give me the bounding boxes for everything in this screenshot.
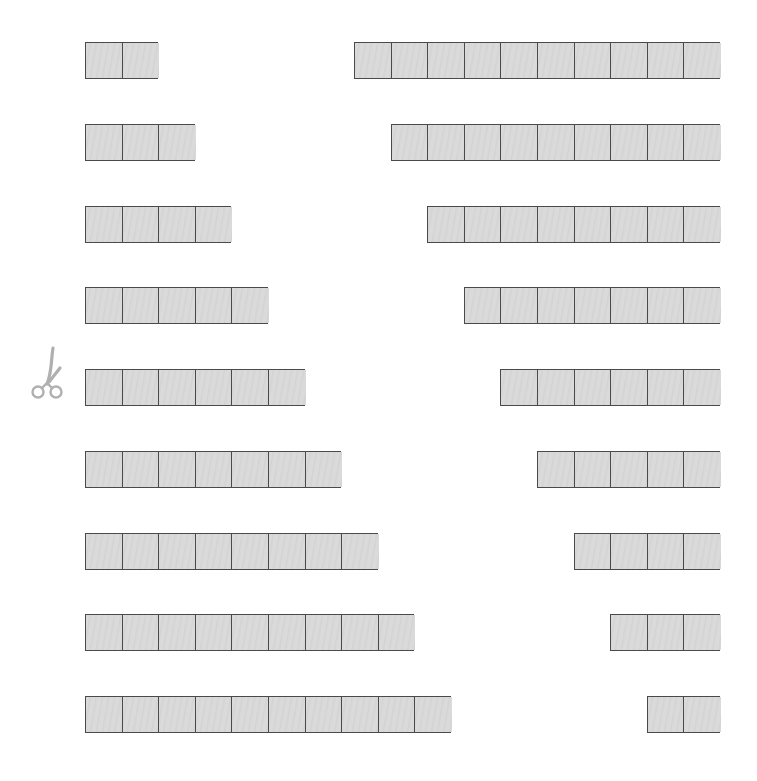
unit-square — [196, 697, 233, 732]
unit-square — [415, 697, 452, 732]
unit-square — [538, 207, 575, 242]
unit-square — [86, 615, 123, 650]
unit-square — [123, 534, 160, 569]
unit-square — [269, 615, 306, 650]
unit-square — [196, 207, 233, 242]
unit-square — [501, 370, 538, 405]
unit-square — [648, 615, 685, 650]
right-strip-row-2 — [391, 124, 720, 161]
unit-square — [648, 125, 685, 160]
unit-square — [575, 43, 612, 78]
unit-square — [684, 452, 721, 487]
unit-square — [232, 452, 269, 487]
unit-square — [611, 43, 648, 78]
unit-square — [269, 370, 306, 405]
unit-square — [269, 697, 306, 732]
unit-square — [86, 207, 123, 242]
unit-square — [538, 43, 575, 78]
unit-square — [232, 534, 269, 569]
unit-square — [611, 370, 648, 405]
unit-square — [232, 288, 269, 323]
unit-square — [159, 452, 196, 487]
unit-square — [86, 534, 123, 569]
unit-square — [123, 207, 160, 242]
unit-square — [196, 534, 233, 569]
left-strip-row-1 — [85, 42, 158, 79]
unit-square — [648, 452, 685, 487]
unit-square — [611, 125, 648, 160]
unit-square — [269, 452, 306, 487]
left-strip-row-7 — [85, 533, 378, 570]
right-strip-row-6 — [537, 451, 720, 488]
unit-square — [611, 615, 648, 650]
unit-square — [684, 288, 721, 323]
unit-square — [196, 370, 233, 405]
unit-square — [684, 615, 721, 650]
unit-square — [684, 207, 721, 242]
unit-square — [501, 125, 538, 160]
right-strip-row-3 — [427, 206, 720, 243]
unit-square — [648, 697, 685, 732]
right-strip-row-9 — [647, 696, 720, 733]
unit-square — [342, 615, 379, 650]
unit-square — [611, 452, 648, 487]
left-strip-row-4 — [85, 287, 268, 324]
unit-square — [684, 534, 721, 569]
unit-square — [611, 207, 648, 242]
unit-square — [465, 207, 502, 242]
unit-square — [159, 288, 196, 323]
left-strip-row-3 — [85, 206, 231, 243]
unit-square — [392, 125, 429, 160]
right-strip-row-1 — [354, 42, 720, 79]
unit-square — [648, 370, 685, 405]
unit-square — [86, 697, 123, 732]
unit-square — [428, 125, 465, 160]
unit-square — [538, 125, 575, 160]
unit-square — [123, 370, 160, 405]
unit-square — [306, 615, 343, 650]
unit-square — [269, 534, 306, 569]
unit-square — [123, 452, 160, 487]
unit-square — [159, 615, 196, 650]
unit-square — [465, 288, 502, 323]
unit-square — [196, 452, 233, 487]
unit-square — [306, 534, 343, 569]
unit-square — [379, 697, 416, 732]
unit-square — [575, 288, 612, 323]
unit-square — [684, 697, 721, 732]
unit-square — [306, 452, 343, 487]
unit-square — [355, 43, 392, 78]
unit-square — [232, 370, 269, 405]
unit-square — [306, 697, 343, 732]
unit-square — [392, 43, 429, 78]
right-strip-row-8 — [610, 614, 720, 651]
unit-square — [684, 43, 721, 78]
unit-square — [159, 125, 196, 160]
unit-square — [501, 43, 538, 78]
unit-square — [342, 534, 379, 569]
unit-square — [123, 288, 160, 323]
unit-square — [465, 125, 502, 160]
right-strip-row-7 — [574, 533, 720, 570]
unit-square — [575, 534, 612, 569]
unit-square — [86, 43, 123, 78]
unit-square — [684, 370, 721, 405]
left-strip-row-2 — [85, 124, 195, 161]
unit-square — [159, 370, 196, 405]
unit-square — [648, 43, 685, 78]
unit-square — [123, 43, 160, 78]
left-strip-row-5 — [85, 369, 305, 406]
left-strip-row-8 — [85, 614, 414, 651]
unit-square — [648, 288, 685, 323]
unit-square — [648, 207, 685, 242]
unit-square — [538, 370, 575, 405]
unit-square — [232, 615, 269, 650]
unit-square — [123, 615, 160, 650]
unit-square — [428, 207, 465, 242]
unit-square — [575, 370, 612, 405]
unit-square — [538, 452, 575, 487]
left-strip-row-9 — [85, 696, 451, 733]
unit-square — [501, 288, 538, 323]
unit-square — [575, 125, 612, 160]
unit-square — [86, 125, 123, 160]
